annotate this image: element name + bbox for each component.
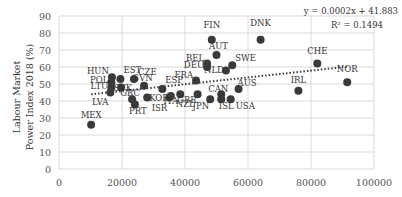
point-label: MEX	[81, 110, 103, 120]
point-label: JPN	[192, 101, 210, 111]
y-tick-label: 0	[45, 164, 51, 175]
scatter-chart: 0102030405060708090 02000040000600008000…	[0, 0, 402, 197]
y-tick-label: 90	[39, 11, 51, 22]
point-label: HUN	[87, 66, 110, 76]
point-label: IRL	[291, 75, 307, 85]
data-point	[108, 73, 116, 81]
y-tick-label: 30	[39, 113, 51, 124]
point-label: SVN	[133, 73, 153, 83]
y-tick-label: 70	[39, 45, 51, 56]
y-tick-label: 10	[39, 147, 51, 158]
point-label: LVA	[92, 97, 109, 107]
point-label: AUT	[208, 41, 228, 51]
trendline-equation: y = 0.0002x + 41.883	[303, 6, 398, 16]
point-label: USA	[236, 101, 256, 111]
y-axis-label-line-2: Power Index 2018 (%)	[24, 44, 35, 151]
point-label: NOR	[337, 64, 358, 74]
point-label: AUS	[237, 78, 257, 88]
y-tick-label: 20	[39, 130, 51, 141]
y-axis-label-line-1: Labour Market	[11, 61, 22, 134]
point-label: FIN	[203, 20, 220, 30]
point-label: PRT	[129, 106, 147, 116]
data-point	[313, 60, 321, 68]
data-point	[294, 87, 302, 95]
data-point	[343, 78, 351, 86]
data-point	[192, 77, 200, 85]
y-axis-label: Labour Market Power Index 2018 (%)	[11, 44, 35, 151]
point-label: ISL	[219, 101, 234, 111]
y-axis-ticks: 0102030405060708090	[39, 11, 51, 175]
point-label: SWE	[235, 53, 256, 63]
y-tick-label: 50	[39, 79, 51, 90]
x-tick-label: 100000	[356, 177, 392, 188]
data-point	[257, 36, 265, 44]
y-tick-label: 60	[39, 62, 51, 73]
y-tick-label: 80	[39, 28, 51, 39]
data-point	[213, 51, 221, 59]
x-tick-label: 60000	[233, 177, 263, 188]
point-label: CAN	[208, 84, 229, 94]
trendline-r-squared: R² = 0.1494	[331, 20, 383, 30]
x-tick-label: 0	[56, 177, 62, 188]
data-point	[87, 121, 95, 129]
point-label: NLD	[204, 65, 224, 75]
point-label: CHE	[307, 46, 327, 56]
point-label: FRA	[175, 70, 194, 80]
x-tick-label: 80000	[296, 177, 326, 188]
x-axis-ticks: 020000400006000080000100000	[56, 177, 392, 188]
point-label: BEL	[186, 53, 204, 63]
point-label: GRC	[120, 88, 140, 98]
point-label: POL	[90, 75, 109, 85]
data-point	[116, 75, 124, 83]
x-tick-label: 20000	[107, 177, 137, 188]
y-tick-label: 40	[39, 96, 51, 107]
data-point	[140, 82, 148, 90]
x-tick-label: 40000	[170, 177, 200, 188]
point-label: DNK	[250, 18, 271, 28]
